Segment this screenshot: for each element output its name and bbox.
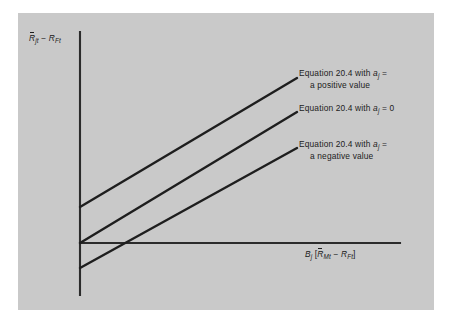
y-axis-operator: −: [41, 33, 46, 43]
x-axis-subscript-mt: Mt: [324, 253, 331, 260]
plot-canvas: [0, 0, 451, 328]
line-positive-alpha: [80, 78, 297, 207]
y-axis-label: Rjt − RFt: [29, 33, 61, 45]
annotation-negative-equals: =: [382, 139, 387, 149]
annotation-positive-equals: =: [382, 68, 387, 78]
annotation-negative-prefix: Equation 20.4 with: [299, 139, 371, 149]
annotation-zero-equals: = 0: [382, 103, 394, 113]
annotation-negative-alpha-subscript: j: [378, 143, 380, 150]
y-axis-subscript-jt: jt: [35, 37, 39, 44]
annotation-zero-prefix: Equation 20.4 with: [299, 103, 371, 113]
x-axis-subscript-ft: Ft: [347, 253, 353, 260]
line-zero-alpha: [80, 112, 297, 243]
x-axis-label: Bj [RMt − RFt]: [305, 249, 356, 261]
annotation-positive-alpha: Equation 20.4 with aj = a positive value: [299, 68, 387, 91]
y-axis-subscript-ft: Ft: [55, 37, 61, 44]
annotation-zero-alpha: Equation 20.4 with aj = 0: [299, 103, 394, 115]
line-negative-alpha: [80, 148, 297, 268]
y-axis-symbol-riskfree: R: [49, 33, 55, 43]
x-axis-symbol-market: R: [317, 249, 323, 261]
x-axis-operator: −: [333, 249, 338, 259]
annotation-positive-prefix: Equation 20.4 with: [299, 68, 371, 78]
annotation-positive-line2: a positive value: [299, 80, 387, 92]
annotation-positive-alpha-subscript: j: [378, 72, 380, 79]
x-axis-subscript-j: j: [311, 253, 313, 260]
x-axis-bracket-close: ]: [353, 249, 355, 259]
annotation-zero-alpha-subscript: j: [378, 107, 380, 114]
figure-root: Rjt − RFt Bj [RMt − RFt] Equation 20.4 w…: [0, 0, 451, 328]
annotation-negative-alpha: Equation 20.4 with aj = a negative value: [299, 139, 387, 162]
annotation-negative-line2: a negative value: [299, 151, 387, 163]
x-axis-symbol-beta: B: [305, 249, 311, 259]
